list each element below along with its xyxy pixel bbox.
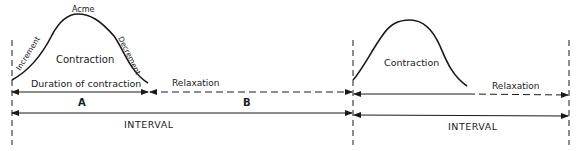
relaxation-label-1: Relaxation [172,78,219,88]
cycle-2-relaxation-arrow [468,94,568,95]
duration-of-contraction-label: Duration of contraction [31,78,141,89]
segment-a-label: A [78,97,86,108]
interval-label-1: INTERVAL [124,119,174,130]
decrement-label: Decrement [116,35,142,76]
uterine-contraction-diagram: Acme Increment Decrement Contraction Dur… [0,0,578,151]
interval-label-2: INTERVAL [448,121,498,132]
contraction-label-2: Contraction [384,57,439,68]
contraction-curve-2 [353,20,467,86]
contraction-label-1: Contraction [56,54,114,65]
segment-b-label: B [243,97,251,108]
relaxation-label-2: Relaxation [492,81,539,91]
acme-label: Acme [72,5,95,14]
increment-label: Increment [14,35,42,72]
interval-arrow-2 [354,115,568,116]
